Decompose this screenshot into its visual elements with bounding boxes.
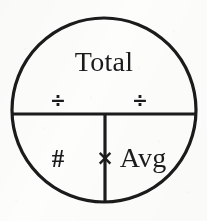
count-label: # xyxy=(52,146,65,171)
divide-right-icon: ÷ xyxy=(132,91,148,110)
total-label: Total xyxy=(75,48,134,76)
average-label: Avg xyxy=(120,144,167,172)
divide-left-icon: ÷ xyxy=(50,91,66,110)
relationship-wheel-graphic xyxy=(0,0,207,221)
diagram-canvas: Total ÷ ÷ # × Avg xyxy=(0,0,207,221)
multiply-icon: × xyxy=(96,148,114,169)
